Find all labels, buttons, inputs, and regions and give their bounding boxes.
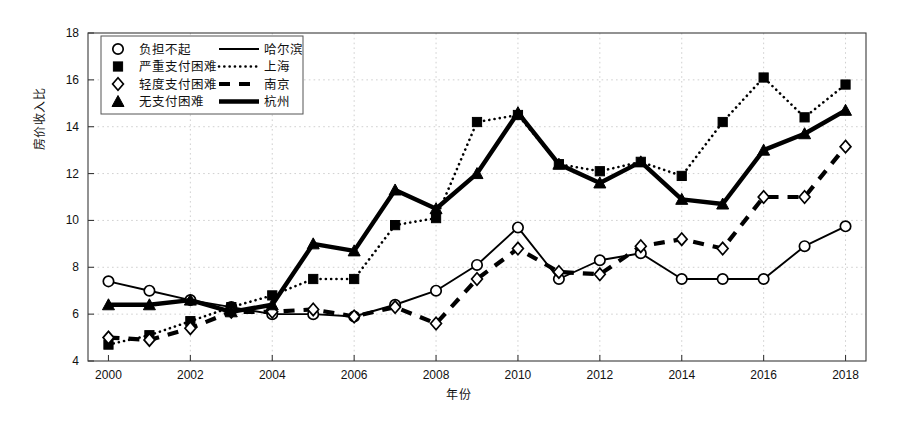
circle-open-marker xyxy=(431,286,441,296)
x-tick-label: 2016 xyxy=(750,368,777,382)
legend-city-label: 南京 xyxy=(264,77,290,92)
x-tick-label: 2002 xyxy=(177,368,204,382)
x-tick-label: 2008 xyxy=(423,368,450,382)
series-line-哈尔滨 xyxy=(108,226,845,316)
circle-open-marker xyxy=(513,222,523,232)
plot-area: 负担不起哈尔滨严重支付困难上海轻度支付困难南京无支付困难杭州 468101214… xyxy=(0,0,904,424)
circle-open-marker xyxy=(799,241,809,251)
legend-city-label: 杭州 xyxy=(264,94,290,109)
y-tick-label: 8 xyxy=(72,260,79,274)
chart-legend[interactable]: 负担不起哈尔滨严重支付困难上海轻度支付困难南京无支付困难杭州 xyxy=(101,36,303,114)
y-tick-label: 12 xyxy=(66,167,80,181)
y-tick-label: 10 xyxy=(66,213,80,227)
y-tick-label: 16 xyxy=(66,73,80,87)
legend-affordability-label: 负担不起 xyxy=(139,43,191,57)
square-filled-marker xyxy=(841,80,850,89)
square-filled-marker xyxy=(113,62,122,71)
x-tick-label: 2004 xyxy=(259,368,286,382)
legend-entry-上海[interactable]: 严重支付困难上海 xyxy=(113,59,290,74)
circle-open-marker xyxy=(677,274,687,284)
x-tick-label: 2006 xyxy=(341,368,368,382)
x-tick-label: 2012 xyxy=(586,368,613,382)
circle-open-marker xyxy=(144,286,154,296)
circle-open-marker xyxy=(840,221,850,231)
circle-open-marker xyxy=(103,276,113,286)
diamond-open-marker xyxy=(840,140,851,152)
circle-open-marker xyxy=(717,274,727,284)
square-filled-marker xyxy=(595,167,604,176)
legend-affordability-label: 无支付困难 xyxy=(139,95,204,109)
y-tick-label: 4 xyxy=(72,354,79,368)
y-tick-label: 18 xyxy=(66,26,80,40)
x-tick-label: 2010 xyxy=(505,368,532,382)
diamond-open-marker xyxy=(676,233,687,245)
square-filled-marker xyxy=(759,73,768,82)
square-filled-marker xyxy=(431,213,440,222)
circle-open-marker xyxy=(595,255,605,265)
x-tick-label: 2018 xyxy=(832,368,859,382)
circle-open-marker xyxy=(758,274,768,284)
circle-open-marker xyxy=(472,260,482,270)
x-tick-label: 2000 xyxy=(95,368,122,382)
y-tick-label: 14 xyxy=(66,120,80,134)
square-filled-marker xyxy=(472,117,481,126)
legend-affordability-label: 严重支付困难 xyxy=(139,59,217,74)
triangle-filled-marker xyxy=(389,184,401,195)
diamond-open-marker xyxy=(717,242,728,254)
legend-city-label: 上海 xyxy=(264,59,290,74)
circle-open-marker xyxy=(113,44,123,54)
legend-entry-杭州[interactable]: 无支付困难杭州 xyxy=(112,94,290,109)
square-filled-marker xyxy=(718,117,727,126)
square-filled-marker xyxy=(677,171,686,180)
x-tick-label: 2014 xyxy=(668,368,695,382)
legend-affordability-label: 轻度支付困难 xyxy=(139,77,217,92)
legend-entry-南京[interactable]: 轻度支付困难南京 xyxy=(113,77,290,92)
square-filled-marker xyxy=(309,274,318,283)
y-tick-label: 6 xyxy=(72,307,79,321)
square-filled-marker xyxy=(391,221,400,230)
legend-city-label: 哈尔滨 xyxy=(264,42,303,57)
chart-figure: 房价收入比 年份 负担不起哈尔滨严重支付困难上海轻度支付困难南京无支付困难杭州 … xyxy=(0,0,904,424)
square-filled-marker xyxy=(350,274,359,283)
triangle-filled-marker xyxy=(840,104,852,115)
square-filled-marker xyxy=(800,113,809,122)
